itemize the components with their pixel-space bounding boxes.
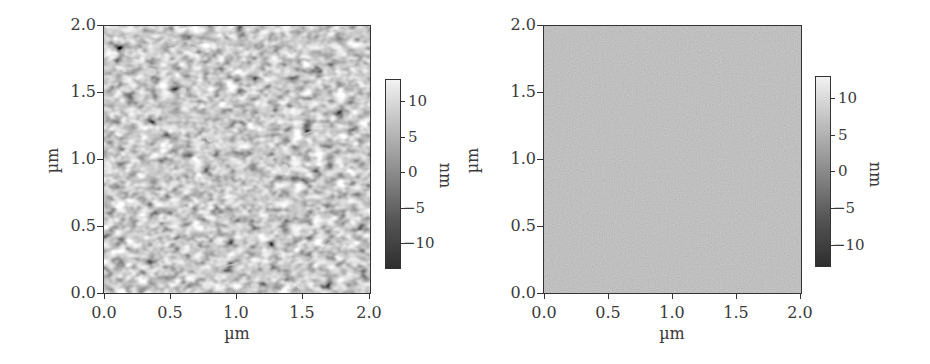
y-tick [537, 92, 543, 93]
colorbar [815, 76, 831, 267]
left-afm-panel: 2.0 1.5 1.0 0.5 0.0 0.0 0.5 1.0 1.5 2.0 … [0, 0, 465, 364]
y-tick [97, 25, 103, 26]
y-tick-label: 2.0 [56, 17, 96, 33]
colorbar-tick [830, 98, 835, 99]
colorbar-tick-label: 10 [838, 91, 857, 106]
x-tick [104, 293, 105, 299]
colorbar-tick-label: 0 [838, 164, 848, 179]
left-height-map [103, 25, 371, 294]
x-tick-label: 0.5 [150, 305, 190, 321]
x-tick [736, 293, 737, 299]
colorbar-tick-label: −10 [403, 236, 435, 251]
x-tick [608, 293, 609, 299]
colorbar [385, 79, 401, 269]
colorbar-tick-label: −5 [833, 201, 855, 216]
y-tick-label: 1.5 [56, 84, 96, 100]
x-tick [236, 293, 237, 299]
colorbar-tick-label: −10 [833, 238, 865, 253]
colorbar-tick-label: −5 [403, 201, 425, 216]
y-tick [97, 293, 103, 294]
x-tick [302, 293, 303, 299]
x-tick-label: 1.5 [716, 305, 756, 321]
x-tick-label: 1.0 [216, 305, 256, 321]
y-tick [97, 226, 103, 227]
x-tick-label: 1.5 [282, 305, 322, 321]
y-tick-label: 1.5 [496, 84, 536, 100]
colorbar-tick [830, 171, 835, 172]
y-tick-label: 0.5 [496, 218, 536, 234]
y-tick-label: 0.0 [56, 285, 96, 301]
y-axis-title: µm [43, 141, 62, 181]
colorbar-tick-label: 0 [408, 165, 418, 180]
x-tick-label: 1.0 [652, 305, 692, 321]
y-tick [537, 159, 543, 160]
x-tick [800, 293, 801, 299]
x-tick-label: 0.0 [84, 305, 124, 321]
y-axis-title: µm [463, 141, 482, 181]
x-tick [369, 293, 370, 299]
x-tick [170, 293, 171, 299]
x-axis-title: µm [642, 324, 702, 343]
x-tick [672, 293, 673, 299]
colorbar-tick [400, 137, 405, 138]
y-tick-label: 0.5 [56, 218, 96, 234]
right-afm-panel: 2.0 1.5 1.0 0.5 0.0 0.0 0.5 1.0 1.5 2.0 … [440, 0, 930, 364]
x-tick-label: 0.0 [524, 305, 564, 321]
y-tick-label: 1.0 [496, 151, 536, 167]
x-tick [544, 293, 545, 299]
x-tick-label: 0.5 [588, 305, 628, 321]
y-tick-label: 2.0 [496, 17, 536, 33]
y-tick [97, 159, 103, 160]
colorbar-tick-label: 5 [408, 130, 418, 145]
flat-surface-texture [544, 26, 801, 293]
right-height-map [543, 25, 802, 294]
y-tick [537, 226, 543, 227]
y-tick [537, 293, 543, 294]
rough-surface-texture [104, 26, 370, 293]
colorbar-tick [400, 172, 405, 173]
y-tick [97, 92, 103, 93]
y-tick-label: 0.0 [496, 285, 536, 301]
x-tick-label: 2.0 [349, 305, 389, 321]
x-tick-label: 2.0 [780, 305, 820, 321]
x-axis-title: µm [207, 324, 267, 343]
colorbar-tick-label: 5 [838, 128, 848, 143]
colorbar-tick [400, 101, 405, 102]
colorbar-tick-label: 10 [408, 94, 427, 109]
colorbar-tick [830, 135, 835, 136]
colorbar-title: nm [866, 155, 885, 195]
y-tick-label: 1.0 [56, 151, 96, 167]
y-tick [537, 25, 543, 26]
